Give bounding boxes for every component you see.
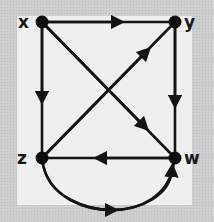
node-w xyxy=(169,152,182,165)
node-z xyxy=(36,152,49,165)
node-x xyxy=(36,16,49,29)
node-label-y: y xyxy=(184,12,195,32)
edge-z-to-w-curved xyxy=(42,158,174,210)
directed-graph: x y z w xyxy=(0,0,214,222)
node-label-z: z xyxy=(17,148,27,168)
node-y xyxy=(169,16,182,29)
node-label-w: w xyxy=(184,148,200,168)
node-label-x: x xyxy=(18,12,29,32)
